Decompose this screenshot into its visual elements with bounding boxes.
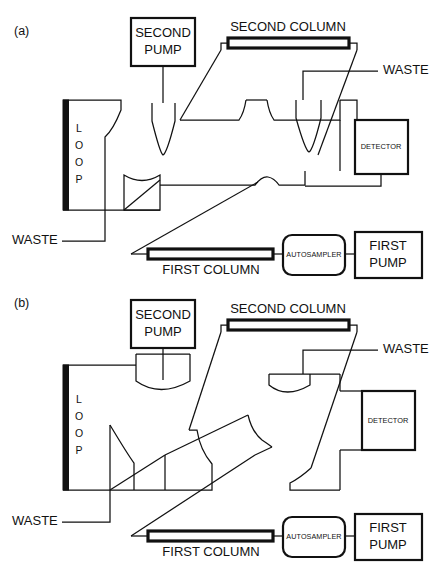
waste-left-label: WASTE	[12, 232, 58, 247]
valve-channel-mid-top	[165, 415, 248, 455]
first-pump-label-line2: PUMP	[369, 537, 407, 552]
second-pump-label-line2: PUMP	[144, 42, 182, 57]
valve-channel-detector-return	[290, 468, 340, 490]
second-pump-label-line1: SECOND	[135, 307, 191, 322]
panel-a-sample-loop: L O O P LOOP	[63, 100, 94, 210]
panel-a-detector[interactable]: DETECTOR	[355, 120, 408, 174]
first-column-body	[148, 531, 273, 541]
detector-inlet-line	[340, 100, 357, 120]
waste-left-line	[62, 211, 105, 241]
loop-letter-l: L	[76, 122, 82, 134]
panel-a-first-column[interactable]: FIRST COLUMN	[148, 249, 273, 277]
valve-bridge-upper-right	[267, 100, 340, 120]
loop-letter-p: P	[75, 444, 82, 456]
panel-a-first-pump[interactable]: FIRST PUMP	[355, 232, 422, 278]
first-column-label: FIRST COLUMN	[162, 544, 259, 559]
valve-bridge-center	[165, 430, 212, 490]
panel-b-autosampler[interactable]: AUTOSAMPLER	[283, 517, 345, 557]
second-pump-label-line2: PUMP	[144, 324, 182, 339]
valve-bridge-lower	[160, 171, 305, 185]
valve-channel-mid-right-curve	[248, 415, 272, 447]
waste-left-label: WASTE	[12, 513, 58, 528]
loop-letter-p: P	[75, 173, 82, 185]
waste-right-label: WASTE	[383, 341, 429, 356]
panel-a-autosampler[interactable]: AUTOSAMPLER	[283, 235, 345, 275]
second-column-body	[228, 38, 349, 48]
valve-channel-loop-curve	[110, 425, 134, 490]
detector-label: DETECTOR	[368, 416, 409, 425]
second-pump-label-line1: SECOND	[135, 25, 191, 40]
first-pump-label-line1: FIRST	[369, 520, 407, 535]
waste-left-line	[62, 490, 110, 522]
panel-a-second-column[interactable]: SECOND COLUMN	[228, 19, 349, 48]
first-column-to-valve-line	[131, 182, 258, 254]
second-column-label: SECOND COLUMN	[230, 19, 346, 34]
second-column-to-valve-line	[311, 332, 357, 468]
first-column-label: FIRST COLUMN	[162, 262, 259, 277]
first-pump-label-line1: FIRST	[369, 238, 407, 253]
valve-channel-mid-right-end	[255, 447, 272, 455]
waste-right-label: WASTE	[383, 62, 429, 77]
panel-a-second-pump[interactable]: SECOND PUMP	[131, 18, 195, 66]
panel-a-label: (a)	[14, 24, 29, 38]
second-column-body	[228, 320, 349, 330]
valve-channel-column-return	[296, 100, 321, 152]
first-pump-label-line2: PUMP	[369, 255, 407, 270]
valve-channel-loop-diagonal	[124, 180, 160, 210]
panel-b: (b) SECOND PUMP SECOND COLUMN WASTE	[12, 296, 429, 560]
panel-b-sample-loop: L O O P LOOP	[63, 365, 94, 490]
panel-b-first-pump[interactable]: FIRST PUMP	[355, 514, 422, 560]
panel-a: (a) SECOND PUMP SECOND COLUMN	[12, 18, 429, 278]
second-column-label: SECOND COLUMN	[230, 301, 346, 316]
waste-right-line	[303, 350, 378, 374]
autosampler-label: AUTOSAMPLER	[286, 250, 341, 259]
valve-channel-pump-inlet	[152, 103, 175, 155]
panel-b-second-column[interactable]: SECOND COLUMN	[228, 301, 349, 330]
first-column-to-valve-line	[131, 455, 255, 536]
autosampler-label: AUTOSAMPLER	[286, 532, 341, 541]
first-column-body	[148, 249, 273, 259]
detector-label: DETECTOR	[361, 142, 402, 151]
panel-b-second-pump[interactable]: SECOND PUMP	[131, 300, 195, 348]
panel-b-first-column[interactable]: FIRST COLUMN	[148, 531, 273, 559]
loop-letter-l: L	[76, 393, 82, 405]
figure-root: (a) SECOND PUMP SECOND COLUMN	[0, 0, 442, 571]
second-column-to-valve-line	[318, 50, 357, 155]
valve-channel-waste	[269, 374, 310, 392]
valve-channel-loop-diagonal	[110, 455, 165, 490]
panel-b-label: (b)	[14, 296, 29, 310]
detector-outlet-line	[305, 174, 381, 186]
two-dimensional-lc-schematic: (a) SECOND PUMP SECOND COLUMN	[0, 0, 442, 571]
panel-b-detector[interactable]: DETECTOR	[362, 391, 415, 450]
